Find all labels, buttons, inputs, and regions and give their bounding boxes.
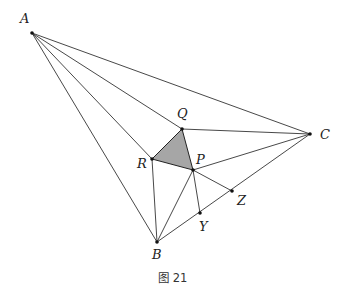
- segment-aq: [32, 33, 182, 129]
- label-y: Y: [199, 219, 209, 234]
- segment-qc: [182, 129, 310, 134]
- point-q: [180, 127, 184, 131]
- point-c: [308, 132, 312, 136]
- point-z: [230, 189, 234, 193]
- figure-caption: 图 21: [158, 271, 187, 285]
- point-r: [150, 157, 154, 161]
- segment-br: [152, 159, 157, 242]
- points: [30, 31, 312, 244]
- segment-bp: [157, 170, 193, 242]
- point-a: [30, 31, 34, 35]
- point-y: [198, 211, 202, 215]
- segment-pz: [193, 170, 232, 191]
- segment-py: [193, 170, 200, 213]
- label-z: Z: [236, 193, 247, 208]
- segment-ar: [32, 33, 152, 159]
- label-b: B: [151, 247, 162, 262]
- label-c: C: [320, 127, 330, 142]
- label-p: P: [195, 152, 205, 167]
- segment-ac: [32, 33, 310, 134]
- label-a: A: [19, 11, 29, 26]
- label-r: R: [136, 156, 147, 171]
- segments: [32, 33, 310, 242]
- label-q: Q: [177, 106, 188, 121]
- point-b: [155, 240, 159, 244]
- geometry-diagram: A Q R P C Z Y B 图 21: [0, 0, 343, 298]
- shaded-triangle-pqr: [152, 129, 193, 170]
- segment-pc: [193, 134, 310, 170]
- segment-ab: [32, 33, 157, 242]
- point-p: [191, 168, 195, 172]
